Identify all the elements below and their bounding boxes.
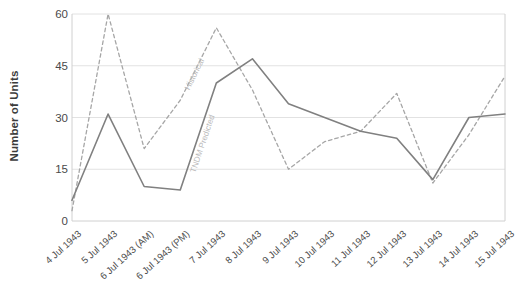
- y-axis-tick-label: 15: [34, 163, 68, 175]
- plot-svg: [72, 14, 505, 221]
- series-line-historical: [72, 14, 505, 211]
- y-axis-tick-label: 45: [34, 60, 68, 72]
- x-axis-tick-labels: 4 Jul 19435 Jul 19436 Jul 1943 (AM)6 Jul…: [0, 226, 517, 304]
- series-line-tndm-predicted: [72, 59, 505, 200]
- y-axis-title: Number of Units: [2, 0, 26, 232]
- plot-area: [72, 14, 505, 221]
- y-axis-title-text: Number of Units: [8, 71, 20, 162]
- chart-container: Number of Units 015304560 4 Jul 19435 Ju…: [0, 0, 517, 304]
- y-axis-tick-label: 60: [34, 8, 68, 20]
- y-axis-tick-labels: 015304560: [30, 0, 68, 232]
- y-axis-tick-label: 30: [34, 112, 68, 124]
